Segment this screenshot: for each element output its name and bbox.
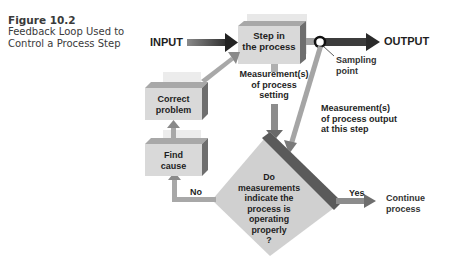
no-label: No bbox=[190, 187, 202, 198]
output-measurement-label: Measurement(s) of process output at this… bbox=[321, 103, 397, 135]
step-box-label: Step in the process bbox=[238, 31, 300, 52]
correct-problem-label: Correct problem bbox=[145, 94, 202, 115]
sampling-point-icon bbox=[315, 37, 325, 47]
continue-process-label: Continue process bbox=[386, 193, 425, 214]
input-arrow bbox=[187, 33, 238, 52]
output-arrow bbox=[322, 33, 380, 51]
decision-label: Do measurements indicate the process is … bbox=[226, 172, 312, 246]
sampling-point-label: Sampling point bbox=[336, 55, 377, 76]
input-label: INPUT bbox=[150, 37, 183, 48]
output-label: OUTPUT bbox=[384, 36, 429, 47]
find-cause-label: Find cause bbox=[145, 150, 202, 171]
setting-measurement-label: Measurement(s) of process setting bbox=[232, 69, 316, 101]
yes-label: Yes bbox=[349, 188, 365, 199]
sampling-pointer-line bbox=[323, 46, 334, 56]
